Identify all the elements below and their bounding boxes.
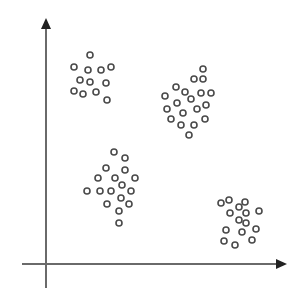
data-point [182,89,188,95]
data-point [122,167,128,173]
data-point [242,199,248,205]
data-point [239,229,245,235]
data-point [71,88,77,94]
data-point [77,77,83,83]
data-point [111,149,117,155]
data-point [97,188,103,194]
data-point [162,93,168,99]
data-point [232,242,238,248]
data-point [200,66,206,72]
data-point [218,200,224,206]
data-point [227,210,233,216]
axes [22,18,287,288]
data-point [249,237,255,243]
data-point [112,175,118,181]
data-point [116,220,122,226]
data-point [122,155,128,161]
data-point [243,220,249,226]
data-point [223,227,229,233]
data-point [191,76,197,82]
data-point [253,226,259,232]
data-point [98,67,104,73]
data-point [108,64,114,70]
data-point [198,90,204,96]
data-point [128,188,134,194]
data-point [173,84,179,90]
data-point [84,188,90,194]
data-point [180,110,186,116]
data-point [200,76,206,82]
x-axis-arrow-icon [276,259,287,269]
cluster-1 [71,52,114,103]
data-point [226,197,232,203]
data-point [191,122,197,128]
scatter-plot [0,0,304,302]
data-point [80,91,86,97]
data-point [174,100,180,106]
data-point [104,97,110,103]
data-point [85,67,91,73]
data-point [256,208,262,214]
data-point [202,116,208,122]
data-point [119,182,125,188]
data-points [71,52,262,248]
cluster-3 [84,149,138,226]
data-point [95,175,101,181]
data-point [108,188,114,194]
data-point [221,238,227,244]
data-point [168,116,174,122]
data-point [236,204,242,210]
cluster-2 [162,66,214,138]
data-point [164,106,170,112]
data-point [103,165,109,171]
data-point [104,201,110,207]
data-point [87,52,93,58]
data-point [208,90,214,96]
data-point [188,96,194,102]
data-point [243,210,249,216]
data-point [93,89,99,95]
cluster-4 [218,197,262,248]
data-point [116,208,122,214]
data-point [87,79,93,85]
data-point [178,122,184,128]
data-point [132,175,138,181]
data-point [126,201,132,207]
data-point [118,195,124,201]
data-point [203,102,209,108]
data-point [236,217,242,223]
data-point [71,64,77,70]
data-point [194,106,200,112]
data-point [186,132,192,138]
y-axis-arrow-icon [41,18,51,29]
data-point [103,80,109,86]
